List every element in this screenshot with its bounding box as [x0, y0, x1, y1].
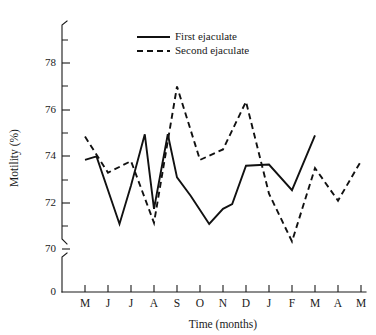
chart-figure: 78 76 74 72 70 0 Motility (%) M J [0, 0, 376, 335]
x-tick-label-8: J [267, 297, 272, 309]
x-tick-label-10: M [310, 297, 320, 309]
y-tick-label-70: 70 [45, 242, 57, 254]
x-tick-label-7: D [242, 297, 250, 309]
x-tick-label-9: F [289, 297, 295, 309]
x-tick-label-6: N [219, 297, 228, 309]
x-tick-label-3: A [150, 297, 159, 309]
x-tick-label-1: J [106, 297, 111, 309]
x-tick-label-4: S [174, 297, 180, 309]
y-axis-lower-stub [62, 253, 67, 292]
motility-line-chart: 78 76 74 72 70 0 Motility (%) M J [0, 0, 376, 335]
x-ticks [85, 285, 361, 292]
x-tick-label-5: O [196, 297, 204, 309]
legend: First ejaculate Second ejaculate [137, 30, 249, 56]
x-tick-label-0: M [80, 297, 90, 309]
y-tick-label-78: 78 [45, 56, 57, 68]
y-tick-label-0: 0 [51, 285, 57, 297]
y-axis-title: Motility (%) [8, 129, 21, 187]
x-tick-label-12: M [356, 297, 366, 309]
legend-label-second-ejaculate: Second ejaculate [175, 44, 249, 56]
x-axis-title: Time (months) [189, 318, 257, 331]
legend-label-first-ejaculate: First ejaculate [175, 30, 237, 42]
x-tick-labels: M J J A S O N D J F M A M [80, 297, 366, 309]
x-tick-label-11: A [334, 297, 343, 309]
y-tick-label-76: 76 [45, 103, 57, 115]
y-tick-label-72: 72 [45, 196, 56, 208]
series-line-second-ejaculate [85, 87, 361, 242]
y-tick-label-74: 74 [45, 149, 57, 161]
y-minor-ticks [62, 40, 68, 226]
series-line-first-ejaculate [85, 134, 315, 224]
y-major-ticks [62, 63, 70, 249]
x-tick-label-2: J [129, 297, 134, 309]
